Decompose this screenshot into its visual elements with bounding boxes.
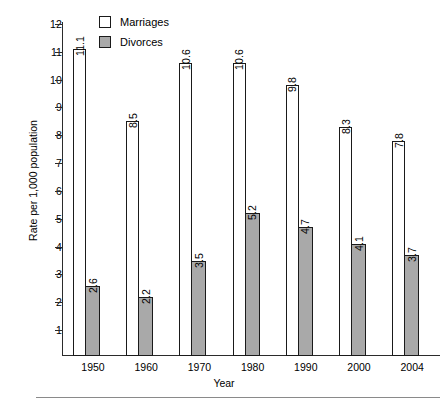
y-tick-mark — [55, 135, 62, 136]
bar-value-label: 2.6 — [88, 278, 98, 293]
x-tick-label-2000: 2000 — [332, 361, 386, 373]
legend-item-marriages: Marriages — [99, 13, 219, 30]
y-tick: 10 — [0, 75, 62, 85]
bar-divorces-2000 — [351, 244, 366, 356]
bar-value-label: 5.2 — [247, 205, 257, 220]
bar-divorces-2004 — [404, 255, 419, 356]
y-tick-mark — [55, 80, 62, 81]
bar-divorces-1980 — [245, 213, 260, 356]
y-tick-mark — [55, 191, 62, 192]
footer-divider — [36, 397, 440, 398]
y-axis-line — [62, 22, 63, 356]
bar-value-label: 10.6 — [181, 49, 191, 70]
bar-divorces-1990 — [298, 227, 313, 356]
bar-value-label: 8.3 — [341, 119, 351, 134]
legend-swatch-divorces — [99, 36, 111, 48]
x-tick-label-1980: 1980 — [226, 361, 280, 373]
x-tick-label-1950: 1950 — [66, 361, 120, 373]
y-tick-mark — [55, 24, 62, 25]
y-tick-mark — [55, 163, 62, 164]
y-tick: 1 — [0, 325, 62, 335]
bar-divorces-1970 — [191, 261, 206, 356]
x-tick-label-1970: 1970 — [172, 361, 226, 373]
bar-divorces-1960 — [138, 297, 153, 356]
bar-value-label: 11.1 — [75, 36, 85, 56]
y-tick-mark — [55, 107, 62, 108]
y-tick-mark — [55, 302, 62, 303]
x-tick-label-1960: 1960 — [119, 361, 173, 373]
y-tick: 9 — [0, 102, 62, 112]
y-tick: 7 — [0, 158, 62, 168]
bar-value-label: 3.7 — [407, 247, 417, 262]
x-tick-label-1990: 1990 — [279, 361, 333, 373]
bar-value-label: 9.8 — [287, 77, 297, 92]
legend-item-divorces: Divorces — [99, 33, 219, 50]
bar-value-label: 3.5 — [194, 253, 204, 268]
y-tick: 5 — [0, 214, 62, 224]
y-tick-mark — [55, 219, 62, 220]
x-tick-label-2004: 2004 — [385, 361, 439, 373]
legend-label-marriages: Marriages — [120, 16, 169, 28]
bar-value-label: 7.8 — [394, 133, 404, 148]
y-tick: 8 — [0, 130, 62, 140]
bar-value-label: 4.1 — [354, 236, 364, 251]
y-tick: 4 — [0, 242, 62, 252]
y-tick-mark — [55, 52, 62, 53]
bar-value-label: 4.7 — [300, 219, 310, 234]
bar-chart: Marriages Divorces Rate per 1,000 popula… — [0, 0, 448, 409]
bar-value-label: 2.2 — [141, 289, 151, 304]
x-axis-title: Year — [0, 377, 448, 389]
y-tick: 12 — [0, 19, 62, 29]
legend-label-divorces: Divorces — [120, 36, 163, 48]
bar-value-label: 8.5 — [128, 113, 138, 128]
bar-divorces-1950 — [85, 286, 100, 356]
bar-value-label: 10.6 — [234, 49, 244, 70]
y-tick-mark — [55, 330, 62, 331]
chart-legend: Marriages Divorces — [99, 13, 219, 53]
y-tick-mark — [55, 247, 62, 248]
legend-swatch-marriages — [99, 16, 111, 28]
y-tick: 3 — [0, 269, 62, 279]
y-tick: 2 — [0, 297, 62, 307]
y-tick-mark — [55, 274, 62, 275]
y-tick: 6 — [0, 186, 62, 196]
y-tick: 11 — [0, 47, 62, 57]
